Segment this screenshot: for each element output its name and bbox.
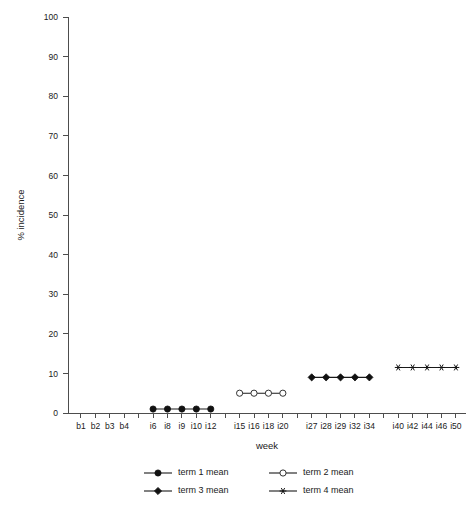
data-point-marker (251, 390, 257, 396)
y-axis-ticks: 0102030405060708090100 (44, 12, 68, 418)
y-tick-label: 100 (44, 12, 58, 22)
data-point-marker (179, 406, 185, 412)
legend-entry-4[interactable]: term 4 mean (269, 485, 354, 495)
data-point-marker (424, 365, 431, 371)
data-point-marker (323, 374, 330, 381)
legend-label: term 2 mean (303, 467, 354, 477)
data-point-marker (265, 390, 271, 396)
y-tick-label: 60 (49, 171, 59, 181)
chart-figure: 0102030405060708090100 b1b2b3b4i6i8i9i10… (0, 0, 475, 510)
x-tick-label: i46 (436, 421, 448, 431)
x-tick-label: b2 (91, 421, 101, 431)
series-4 (395, 365, 459, 371)
legend-label: term 4 mean (303, 485, 354, 495)
data-point-marker (438, 365, 445, 371)
x-tick-label: i42 (407, 421, 419, 431)
y-tick-label: 50 (49, 210, 59, 220)
data-point-marker (409, 365, 416, 371)
y-tick-label: 40 (49, 250, 59, 260)
y-tick-label: 10 (49, 369, 59, 379)
x-tick-label: i18 (263, 421, 275, 431)
data-point-marker (337, 374, 344, 381)
data-point-marker (280, 390, 286, 396)
x-tick-label: i29 (335, 421, 347, 431)
data-point-marker (193, 406, 199, 412)
x-tick-label: i32 (349, 421, 361, 431)
data-series-group (150, 365, 459, 413)
series-1 (150, 406, 214, 412)
x-axis-title: week (255, 440, 278, 451)
data-point-marker (280, 488, 287, 494)
series-3 (308, 374, 373, 381)
data-point-marker (280, 470, 286, 476)
data-point-marker (366, 374, 373, 381)
y-tick-label: 0 (53, 408, 58, 418)
data-point-marker (237, 390, 243, 396)
y-tick-label: 90 (49, 52, 59, 62)
legend-entry-2[interactable]: term 2 mean (269, 467, 354, 477)
x-tick-label: b1 (76, 421, 86, 431)
x-tick-label: i50 (450, 421, 462, 431)
legend-label: term 1 mean (178, 467, 229, 477)
x-axis-ticks: b1b2b3b4i6i8i9i10i12i15i16i18i20i27i28i2… (76, 413, 462, 431)
x-tick-label: i8 (164, 421, 171, 431)
legend-entry-1[interactable]: term 1 mean (144, 467, 229, 477)
y-tick-label: 70 (49, 131, 59, 141)
x-tick-label: i20 (277, 421, 289, 431)
data-point-marker (453, 365, 460, 371)
x-tick-label: b3 (105, 421, 115, 431)
data-point-marker (155, 470, 161, 476)
data-point-marker (208, 406, 214, 412)
y-tick-label: 30 (49, 289, 59, 299)
legend-label: term 3 mean (178, 485, 229, 495)
x-tick-label: i9 (179, 421, 186, 431)
x-tick-label: i40 (393, 421, 405, 431)
x-tick-label: b4 (120, 421, 130, 431)
x-tick-label: i12 (205, 421, 217, 431)
series-2 (237, 390, 286, 396)
data-point-marker (154, 487, 161, 494)
x-tick-label: i34 (364, 421, 376, 431)
data-point-marker (150, 406, 156, 412)
x-tick-label: i27 (306, 421, 318, 431)
x-tick-label: i16 (248, 421, 260, 431)
incidence-line-chart: 0102030405060708090100 b1b2b3b4i6i8i9i10… (0, 0, 475, 510)
y-tick-label: 80 (49, 91, 59, 101)
x-tick-label: i28 (320, 421, 332, 431)
x-tick-label: i10 (191, 421, 203, 431)
y-axis-title: % incidence (15, 189, 26, 240)
data-point-marker (395, 365, 402, 371)
chart-legend: term 1 meanterm 2 meanterm 3 meanterm 4 … (144, 467, 354, 495)
data-point-marker (351, 374, 358, 381)
x-tick-label: i44 (421, 421, 433, 431)
x-tick-label: i15 (234, 421, 246, 431)
legend-entry-3[interactable]: term 3 mean (144, 485, 229, 495)
data-point-marker (164, 406, 170, 412)
y-tick-label: 20 (49, 329, 59, 339)
x-tick-label: i6 (150, 421, 157, 431)
data-point-marker (308, 374, 315, 381)
